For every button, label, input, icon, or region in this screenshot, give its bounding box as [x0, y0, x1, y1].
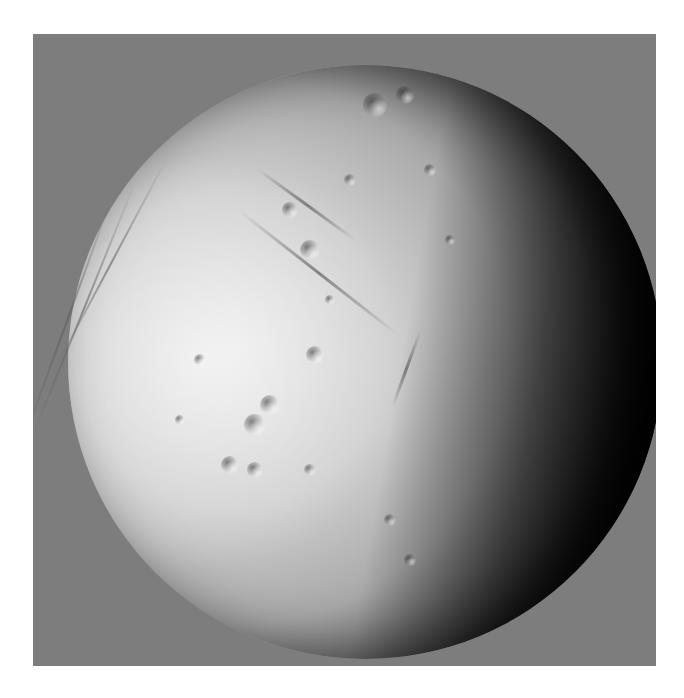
crater — [424, 164, 436, 176]
crater — [260, 395, 280, 415]
crater — [300, 240, 320, 260]
crater — [384, 514, 396, 526]
crater — [363, 93, 387, 117]
crater — [325, 295, 335, 305]
crater — [282, 202, 298, 218]
crater — [304, 464, 316, 476]
terminator-shadow — [68, 65, 656, 659]
crater — [221, 456, 239, 474]
crater — [344, 174, 356, 186]
crater — [445, 235, 455, 245]
crater — [306, 346, 324, 364]
crater — [247, 462, 263, 478]
crater — [404, 554, 416, 566]
moon-sphere — [68, 65, 656, 659]
crater — [175, 415, 185, 425]
crater — [396, 86, 414, 104]
crater — [244, 414, 266, 436]
photo-frame — [33, 34, 656, 666]
crater — [194, 354, 206, 366]
